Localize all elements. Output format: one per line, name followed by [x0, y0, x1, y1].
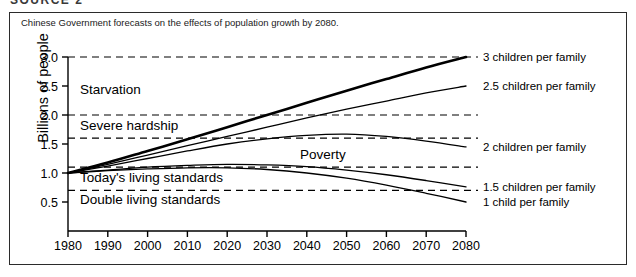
x-tick-label: 2080 [452, 239, 480, 253]
series-label-1: 2.5 children per family [483, 80, 596, 92]
x-tick-label: 2060 [372, 239, 400, 253]
zone-label-double-living-standards: Double living standards [80, 192, 221, 207]
y-tick-label: 2.5 [41, 80, 58, 94]
series-label-4: 1 child per family [483, 196, 570, 208]
x-tick-label: 1980 [54, 239, 82, 253]
zone-label-poverty: Poverty [300, 147, 346, 162]
zone-label-todays-living-standards: Today's living standards [80, 170, 223, 185]
x-tick-label: 1990 [94, 239, 122, 253]
series-label-3: 1.5 children per family [483, 181, 596, 193]
series-label-2: 2 children per family [483, 141, 586, 153]
x-tick-label: 2010 [173, 239, 201, 253]
x-tick-label: 2030 [253, 239, 281, 253]
x-tick-label: 2070 [412, 239, 440, 253]
x-tick-label: 2000 [134, 239, 162, 253]
y-tick-label: 2.0 [41, 109, 58, 123]
zone-label-severe-hardship: Severe hardship [80, 118, 178, 133]
series-label-0: 3 children per family [483, 51, 586, 63]
y-tick-label: 3.0 [41, 51, 58, 65]
figure-page: SOURCE 2 Chinese Government forecasts on… [0, 0, 636, 277]
y-tick-label: 1.0 [41, 167, 58, 181]
population-forecast-chart: 0.51.01.52.02.53.01980199020002010202020… [0, 0, 636, 277]
x-tick-label: 2020 [213, 239, 241, 253]
x-tick-label: 2040 [293, 239, 321, 253]
x-tick-label: 2050 [333, 239, 361, 253]
zone-label-starvation: Starvation [80, 82, 141, 97]
y-tick-label: 1.5 [41, 138, 58, 152]
y-tick-label: 0.5 [41, 196, 58, 210]
